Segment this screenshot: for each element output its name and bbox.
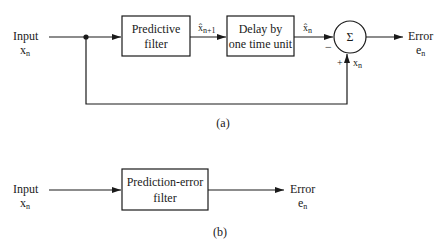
predictive-filter-line2: filter	[144, 37, 167, 51]
sigma-symbol: Σ	[347, 30, 354, 44]
delay-line2: one time unit	[229, 37, 293, 51]
delay-line1: Delay by	[239, 22, 283, 36]
input-var-a: xn	[20, 43, 30, 58]
minus-sign: −	[325, 40, 332, 54]
delayed-label: x̂n	[303, 22, 312, 35]
feedback-label: xn	[353, 57, 362, 70]
diagram-b: Input xn Prediction-error filter Error e…	[13, 169, 315, 239]
predictive-filter-line1: Predictive	[132, 22, 181, 36]
diagram-a: Input xn Predictive filter x̂n+1 Delay b…	[13, 16, 433, 130]
caption-a: (a)	[216, 116, 229, 130]
input-label-b: Input	[13, 182, 39, 196]
input-var-b: xn	[20, 196, 30, 211]
plus-sign: +	[337, 57, 343, 68]
block-diagram: Input xn Predictive filter x̂n+1 Delay b…	[0, 0, 446, 245]
input-label-a: Input	[13, 29, 39, 43]
pef-line1: Prediction-error	[127, 175, 204, 189]
output-label-b: Error	[290, 182, 315, 196]
caption-b: (b)	[213, 225, 227, 239]
output-label-a: Error	[408, 29, 433, 43]
output-var-b: en	[298, 196, 307, 211]
output-var-a: en	[416, 43, 425, 58]
predicted-label: x̂n+1	[198, 22, 216, 35]
pef-line2: filter	[153, 191, 176, 205]
